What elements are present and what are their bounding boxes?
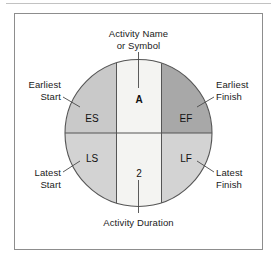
- callout-earliest-finish: Earliest Finish: [216, 79, 266, 102]
- callout-activity-duration-line1: Activity Duration: [78, 217, 199, 229]
- callout-activity-name: Activity Name or Symbol: [88, 28, 189, 51]
- quadrant-label-es: ES: [72, 113, 112, 124]
- activity-node-diagram: ES EF LS LF A 2 Activity Name or Symbol …: [0, 0, 277, 263]
- callout-earliest-start: Earliest Start: [14, 79, 61, 102]
- callout-latest-finish-line2: Finish: [216, 179, 266, 191]
- callout-activity-duration: Activity Duration: [78, 217, 199, 229]
- callout-latest-finish-line1: Latest: [216, 167, 266, 179]
- callout-latest-finish: Latest Finish: [216, 167, 266, 190]
- callout-activity-name-line2: or Symbol: [88, 40, 189, 52]
- quadrant-label-ls: LS: [72, 153, 112, 164]
- callout-earliest-start-line2: Start: [14, 91, 61, 103]
- activity-duration-value: 2: [118, 168, 160, 179]
- callout-latest-start: Latest Start: [14, 167, 61, 190]
- callout-earliest-finish-line2: Finish: [216, 91, 266, 103]
- callout-activity-name-line1: Activity Name: [88, 28, 189, 40]
- activity-symbol-value: A: [118, 94, 160, 105]
- quadrant-label-ef: EF: [166, 113, 206, 124]
- callout-latest-start-line2: Start: [14, 179, 61, 191]
- callout-earliest-start-line1: Earliest: [14, 79, 61, 91]
- callout-earliest-finish-line1: Earliest: [216, 79, 266, 91]
- node-circle-fills: [60, 58, 219, 211]
- callout-latest-start-line1: Latest: [14, 167, 61, 179]
- quadrant-label-lf: LF: [166, 153, 206, 164]
- center-band-fill: [116, 58, 162, 211]
